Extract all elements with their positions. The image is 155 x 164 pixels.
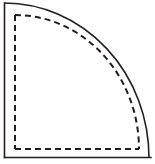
- quarter-round-diagram-svg: [0, 0, 155, 164]
- quarter-round-diagram-canvas: [0, 0, 155, 164]
